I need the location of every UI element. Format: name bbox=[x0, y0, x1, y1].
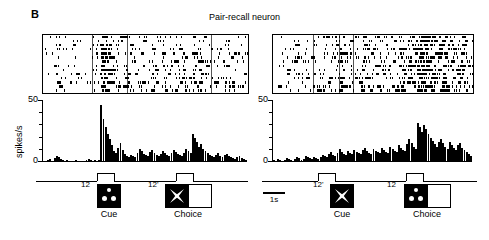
raster-spike bbox=[434, 65, 436, 68]
y-tick-minor-right-2 bbox=[269, 124, 272, 125]
raster-spike bbox=[296, 44, 300, 47]
raster-spike bbox=[314, 40, 315, 43]
raster-spike bbox=[438, 60, 439, 63]
raster-spike bbox=[409, 48, 410, 51]
raster-spike bbox=[382, 40, 383, 43]
raster-spike bbox=[93, 69, 94, 72]
raster-spike bbox=[449, 89, 450, 92]
raster-spike bbox=[120, 85, 121, 88]
raster-spike bbox=[313, 85, 315, 88]
raster-spike bbox=[465, 36, 466, 39]
raster-spike bbox=[452, 81, 453, 84]
cue-caption-left: Cue bbox=[88, 209, 130, 219]
raster-spike bbox=[241, 44, 242, 47]
choice-label-right: 12 bbox=[387, 180, 396, 189]
raster-spike bbox=[124, 36, 128, 39]
raster-spike bbox=[460, 48, 461, 51]
raster-spike bbox=[297, 60, 298, 63]
raster-spike bbox=[421, 77, 423, 80]
raster-spike bbox=[113, 65, 114, 68]
raster-spike bbox=[45, 48, 46, 51]
raster-spike bbox=[415, 85, 416, 88]
y-tick-label-50-left: 50 bbox=[20, 94, 38, 104]
raster-spike bbox=[200, 48, 201, 51]
raster-spike bbox=[176, 44, 177, 47]
raster-spike bbox=[406, 56, 407, 59]
raster-spike bbox=[429, 73, 430, 76]
raster-spike bbox=[177, 89, 178, 92]
raster-spike bbox=[73, 40, 74, 43]
raster-spike bbox=[364, 60, 365, 63]
raster-spike bbox=[223, 77, 224, 80]
raster-spike bbox=[426, 44, 428, 47]
raster-spike bbox=[404, 60, 405, 63]
raster-spike bbox=[390, 65, 391, 68]
raster-spike bbox=[205, 89, 206, 92]
x-shape-stimulus-icon bbox=[330, 184, 354, 208]
raster-spike bbox=[283, 60, 284, 63]
raster-spike bbox=[305, 52, 306, 55]
raster-spike bbox=[58, 81, 61, 84]
raster-spike bbox=[398, 85, 399, 88]
raster-spike bbox=[48, 73, 49, 76]
raster-spike bbox=[391, 36, 393, 39]
raster-spike bbox=[117, 48, 118, 51]
raster-spike bbox=[422, 89, 423, 92]
histogram-bars-right bbox=[273, 100, 472, 162]
raster-spike bbox=[339, 36, 340, 39]
x-shape-stimulus-icon bbox=[165, 184, 189, 208]
raster-spike bbox=[443, 44, 444, 47]
raster-spike bbox=[165, 89, 168, 92]
raster-spike bbox=[226, 40, 227, 43]
raster-spike bbox=[385, 65, 386, 68]
raster-spike bbox=[375, 36, 376, 39]
raster-spike bbox=[116, 85, 117, 88]
raster-spike bbox=[454, 52, 455, 55]
raster-spike bbox=[434, 85, 435, 88]
raster-spike bbox=[452, 44, 454, 47]
raster-spike bbox=[290, 89, 291, 92]
raster-spike bbox=[366, 60, 367, 63]
raster-spike bbox=[170, 69, 171, 72]
raster-spike bbox=[340, 48, 342, 51]
raster-spike bbox=[283, 65, 284, 68]
raster-spike bbox=[349, 85, 351, 88]
raster-spike bbox=[148, 81, 149, 84]
raster-spike bbox=[460, 81, 461, 84]
raster-spike bbox=[292, 60, 293, 63]
raster-spike bbox=[124, 73, 125, 76]
raster-spike bbox=[98, 40, 99, 43]
raster-spike bbox=[465, 65, 466, 68]
raster-spike bbox=[220, 48, 222, 51]
raster-spike bbox=[472, 73, 474, 76]
raster-spike bbox=[402, 69, 406, 72]
raster-spike bbox=[405, 73, 407, 76]
raster-spike bbox=[336, 36, 337, 39]
raster-spike bbox=[228, 44, 229, 47]
raster-spike bbox=[455, 77, 456, 80]
raster-spike bbox=[352, 81, 353, 84]
raster-spike bbox=[408, 44, 409, 47]
raster-spike bbox=[457, 56, 458, 59]
raster-spike bbox=[293, 48, 294, 51]
three-dot-stimulus-icon bbox=[404, 184, 428, 208]
raster-spike bbox=[397, 89, 398, 92]
raster-spike bbox=[50, 36, 51, 39]
raster-spike bbox=[182, 77, 185, 80]
raster-spike bbox=[138, 69, 139, 72]
raster-spike bbox=[459, 89, 460, 92]
raster-spike bbox=[108, 48, 110, 51]
raster-spike bbox=[63, 48, 64, 51]
raster-spike bbox=[245, 36, 246, 39]
raster-spike bbox=[214, 60, 215, 63]
y-tick-50-left bbox=[38, 100, 42, 101]
raster-spike bbox=[176, 60, 179, 63]
raster-spike bbox=[372, 77, 373, 80]
raster-spike bbox=[135, 73, 138, 76]
raster-spike bbox=[157, 73, 158, 76]
raster-spike bbox=[418, 85, 420, 88]
raster-spike bbox=[389, 69, 390, 72]
raster-spike bbox=[185, 89, 187, 92]
raster-spike bbox=[139, 85, 140, 88]
raster-spike bbox=[155, 65, 157, 68]
